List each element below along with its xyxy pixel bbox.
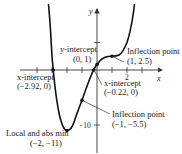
inflection-right-coords: (1, 2.5) [127,56,152,66]
y-axis-label: y [88,7,93,16]
inflection-left-title: Inflection point [112,109,165,119]
y-intercept-title: y-intercept [60,44,97,54]
x-axis-label: x [156,74,161,83]
min-title: Local and abs min [6,128,69,138]
x-intercept-left-coords: (−2.92, 0) [17,81,51,91]
y-intercept-coords: (0, 1) [73,54,92,64]
x-intercept-right-coords: (−0.22, 0) [104,87,138,97]
min-coords: (−2, −11) [30,138,62,148]
point-y-intercept [95,63,99,67]
y-tick-label-neg10: −10 [79,121,91,130]
inflection-left-coords: (−1, −5.5) [112,119,147,129]
function-graph: 2 x y −10 y-intercept (0, 1) x-intercept… [0,0,182,154]
inflection-right-title: Inflection point [127,46,180,56]
